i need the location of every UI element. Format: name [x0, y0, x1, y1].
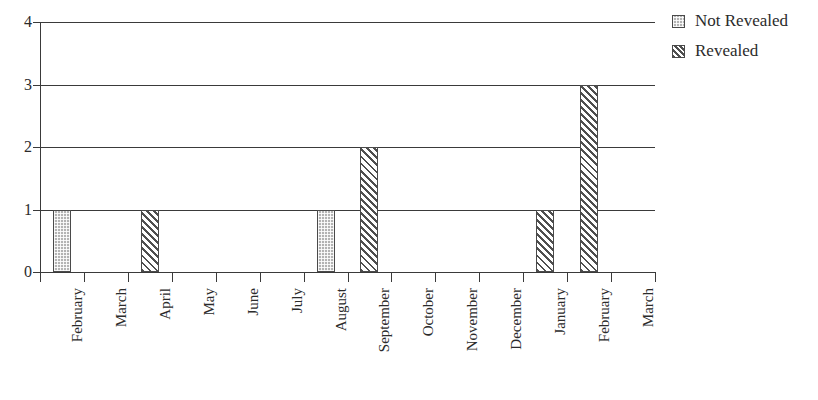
x-axis-label: January	[552, 288, 569, 398]
x-axis-label: August	[333, 288, 350, 398]
x-axis-label: February	[69, 288, 86, 398]
plot-area	[40, 22, 655, 272]
legend-item-not-revealed: Not Revealed	[672, 6, 818, 36]
gridline-3	[40, 85, 655, 86]
y-tick-label-1: 1	[4, 202, 32, 218]
bar-revealed	[141, 210, 159, 273]
x-tick-mark	[40, 272, 41, 282]
x-axis-label: July	[289, 288, 306, 398]
x-tick-mark	[435, 272, 436, 282]
x-axis-label: November	[464, 288, 481, 398]
y-tick-label-0: 0	[4, 264, 32, 280]
y-tick-mark-1	[33, 210, 47, 211]
x-axis-label: May	[201, 288, 218, 398]
y-tick-label-4: 4	[4, 14, 32, 30]
x-axis-label: September	[376, 288, 393, 398]
y-tick-label-3: 3	[4, 77, 32, 93]
x-tick-mark	[523, 272, 524, 282]
chart-legend: Not Revealed Revealed	[672, 6, 818, 66]
y-tick-mark-3	[33, 85, 47, 86]
x-tick-mark	[84, 272, 85, 282]
bar-not-revealed	[53, 210, 71, 273]
x-tick-mark	[128, 272, 129, 282]
x-tick-mark	[391, 272, 392, 282]
x-tick-mark	[260, 272, 261, 282]
y-tick-mark-2	[33, 147, 47, 148]
x-axis-label: April	[157, 288, 174, 398]
x-axis-label: March	[113, 288, 130, 398]
x-tick-mark	[567, 272, 568, 282]
x-axis-label: March	[640, 288, 657, 398]
gridline-4	[40, 22, 655, 23]
x-axis-label: December	[508, 288, 525, 398]
legend-label-revealed: Revealed	[695, 42, 758, 60]
x-tick-mark	[216, 272, 217, 282]
x-axis-label: February	[596, 288, 613, 398]
x-tick-mark	[348, 272, 349, 282]
x-axis-label: October	[420, 288, 437, 398]
legend-label-not-revealed: Not Revealed	[695, 12, 788, 30]
y-tick-label-2: 2	[4, 139, 32, 155]
bar-chart-figure: 4 3 2 1 0 FebruaryMarchAprilMayJuneJulyA…	[0, 0, 818, 400]
bar-not-revealed	[317, 210, 335, 273]
y-axis-labels: 4 3 2 1 0	[0, 0, 32, 400]
legend-swatch-revealed-icon	[672, 45, 685, 58]
x-tick-mark	[479, 272, 480, 282]
x-tick-mark	[304, 272, 305, 282]
bar-revealed	[536, 210, 554, 273]
gridline-2	[40, 147, 655, 148]
x-tick-mark	[655, 272, 656, 282]
gridline-1	[40, 210, 655, 211]
legend-item-revealed: Revealed	[672, 36, 818, 66]
legend-swatch-not-revealed-icon	[672, 15, 685, 28]
x-axis-label: June	[245, 288, 262, 398]
y-tick-mark-4	[33, 22, 47, 23]
bar-revealed	[360, 147, 378, 272]
x-tick-mark	[172, 272, 173, 282]
bar-revealed	[580, 85, 598, 273]
x-tick-mark	[611, 272, 612, 282]
